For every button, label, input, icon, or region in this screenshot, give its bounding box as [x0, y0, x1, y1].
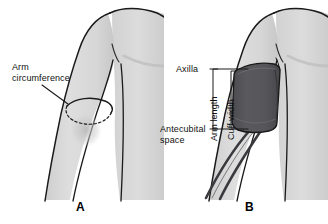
- arm-circumference-panel: Arm circumference A: [0, 0, 164, 224]
- panel-b-illustration: [164, 0, 328, 224]
- panel-a-illustration: [0, 0, 164, 224]
- panel-a-letter: A: [76, 200, 85, 214]
- arm-length-label: Arm length: [209, 96, 219, 141]
- figure-container: Arm circumference A: [0, 0, 328, 224]
- cuff-width-label: Cuff width: [226, 99, 236, 140]
- cuff-placement-panel: Axilla Antecubital space Arm length Cuff…: [164, 0, 328, 224]
- antecubital-space-label: Antecubital space: [160, 124, 206, 145]
- torso-shape: [276, 8, 328, 200]
- panel-b-letter: B: [245, 200, 254, 214]
- arm-circumference-leader-line: [42, 85, 68, 104]
- arm-circumference-label: Arm circumference: [12, 62, 70, 83]
- torso-shape: [112, 8, 164, 200]
- axilla-label: Axilla: [176, 64, 198, 75]
- elbow-shading: [70, 113, 102, 147]
